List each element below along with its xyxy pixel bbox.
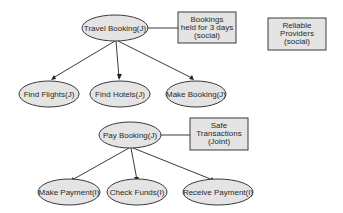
node-label: Check Funds(I) <box>110 188 165 197</box>
note-line: (Joint) <box>208 137 231 146</box>
node-receive-payment[interactable]: Receive Payment(I) <box>183 179 254 205</box>
node-label: Receive Payment(I) <box>183 188 254 197</box>
edge-travel-booking-find-hotels <box>116 41 119 78</box>
node-travel-booking[interactable]: Travel Booking(J) <box>82 15 148 41</box>
node-find-hotels[interactable]: Find Hotels(J) <box>90 81 150 107</box>
diagram-canvas: Travel Booking(J) Bookings held for 3 da… <box>0 0 343 213</box>
note-bookings-held[interactable]: Bookings held for 3 days (social) <box>178 12 236 43</box>
node-make-payment[interactable]: Make Payment(I) <box>38 179 100 205</box>
node-label: Travel Booking(J) <box>84 24 147 33</box>
node-find-flights[interactable]: Find Flights(J) <box>19 81 79 107</box>
edge-pay-booking-check-funds <box>131 148 137 180</box>
edge-travel-booking-make-booking <box>118 41 192 78</box>
node-label: Find Hotels(J) <box>95 90 145 99</box>
node-label: Pay Booking(J) <box>103 131 158 140</box>
note-reliable-providers[interactable]: Reliable Providers (social) <box>268 18 326 50</box>
node-check-funds[interactable]: Check Funds(I) <box>107 179 167 205</box>
node-pay-booking[interactable]: Pay Booking(J) <box>99 122 161 148</box>
note-line: (social) <box>194 31 220 40</box>
node-label: Make Booking(J) <box>166 90 226 99</box>
arrowhead <box>51 75 56 80</box>
note-safe-transactions[interactable]: Safe Transactions (Joint) <box>190 118 248 150</box>
arrowhead <box>189 75 194 80</box>
edge-pay-booking-receive-payment <box>133 148 213 180</box>
arrowhead <box>117 74 122 80</box>
node-label: Find Flights(J) <box>24 90 75 99</box>
node-label: Make Payment(I) <box>39 188 100 197</box>
edge-travel-booking-find-flights <box>53 41 115 78</box>
node-make-booking[interactable]: Make Booking(J) <box>166 81 226 107</box>
edge-pay-booking-make-payment <box>72 148 129 180</box>
note-line: (social) <box>284 37 310 46</box>
